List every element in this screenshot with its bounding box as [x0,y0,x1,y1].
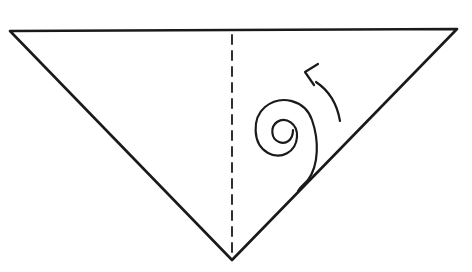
triangle-outline [10,29,457,260]
roll-spiral-icon [256,100,317,191]
curved-arrow-icon [316,82,340,121]
origami-diagram [0,0,472,272]
